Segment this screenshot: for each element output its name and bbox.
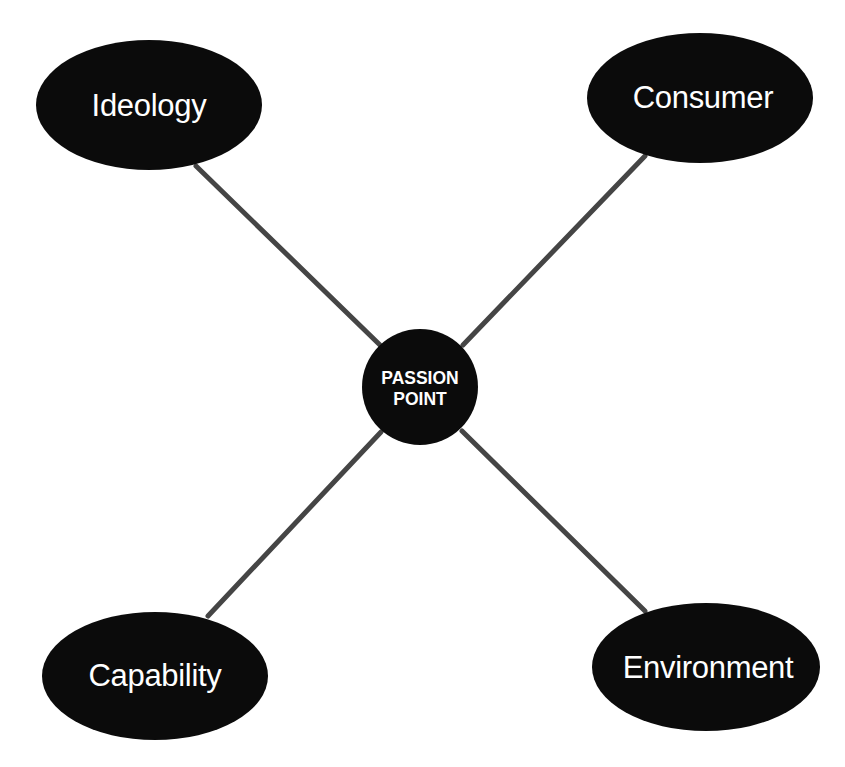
edge-capability-center [208,432,381,616]
node-capability: Capability [42,612,268,740]
node-ideology-label: Ideology [92,88,208,123]
node-environment: Environment [592,603,820,731]
edge-environment-center [462,431,645,611]
node-passion-point-label-line2: POINT [393,389,447,409]
diagram-canvas: Ideology Consumer Capability Environment… [0,0,845,767]
node-consumer-label: Consumer [633,80,774,115]
edge-consumer-center [463,156,645,345]
node-environment-label: Environment [623,650,794,685]
passion-point-diagram: Ideology Consumer Capability Environment… [0,0,845,767]
node-passion-point-label-line1: PASSION [381,368,458,388]
node-passion-point: PASSION POINT [362,329,478,445]
node-ideology: Ideology [36,40,262,170]
node-consumer: Consumer [587,33,813,163]
edge-ideology-center [196,166,380,345]
node-capability-label: Capability [88,658,222,693]
